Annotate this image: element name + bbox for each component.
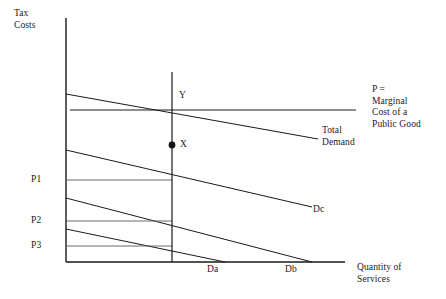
demand-curve-dc <box>66 150 312 207</box>
marginal-cost-label: P =MarginalCost of aPublic Good <box>372 84 421 130</box>
marginal-cost-label-line2: Marginal <box>372 96 407 106</box>
demand-curve-db <box>66 198 312 262</box>
y-axis-label: TaxCosts <box>14 8 36 31</box>
quantity-tick-label-da: Da <box>207 264 218 276</box>
marginal-cost-label-line4: Public Good <box>372 119 421 129</box>
x-axis-label-line1: Quantity of <box>357 262 402 272</box>
diagram-svg <box>0 0 446 299</box>
point-x-label: X <box>180 139 187 151</box>
y-axis-label-line1: Tax <box>14 8 28 18</box>
point-y-label: Y <box>179 90 186 102</box>
demand-curve-da <box>66 229 225 262</box>
price-tick-label-p2: P2 <box>31 215 41 227</box>
demand-curve-dc-label: Dc <box>313 204 324 216</box>
total-demand-label-line1: Total <box>322 125 342 135</box>
total-demand-curve <box>66 94 318 139</box>
diagram-canvas: TaxCosts Quantity ofServices P =Marginal… <box>0 0 446 299</box>
point-x-marker <box>169 142 176 149</box>
quantity-tick-label-db: Db <box>285 264 297 276</box>
total-demand-label-line2: Demand <box>322 137 355 147</box>
price-tick-label-p3: P3 <box>31 240 41 252</box>
marginal-cost-label-line1: P = <box>372 84 385 94</box>
marginal-cost-label-line3: Cost of a <box>372 107 407 117</box>
x-axis-label: Quantity ofServices <box>357 262 402 285</box>
total-demand-label: TotalDemand <box>322 125 355 148</box>
price-tick-label-p1: P1 <box>31 174 41 186</box>
y-axis-label-line2: Costs <box>14 20 36 30</box>
x-axis-label-line2: Services <box>357 274 390 284</box>
